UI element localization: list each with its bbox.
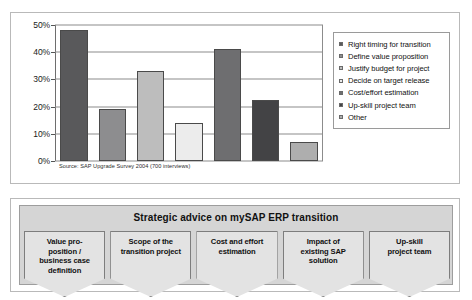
source-note: Source: SAP Upgrade Survey 2004 (700 int… <box>59 163 190 169</box>
step-4[interactable]: Impact of existing SAP solution <box>283 231 364 297</box>
legend-item-label: Justify budget for project <box>348 64 429 73</box>
bar-7 <box>290 142 318 161</box>
legend-item[interactable]: Justify budget for project <box>339 62 445 74</box>
legend-swatch-icon <box>339 115 343 119</box>
legend-item-label: Other <box>348 113 367 122</box>
legend-item[interactable]: Decide on target release <box>339 75 445 87</box>
legend-item[interactable]: Right timing for transition <box>339 38 445 50</box>
step-label: Up-skill project team <box>371 237 448 256</box>
bar-1 <box>60 30 88 161</box>
y-tick-mark <box>51 161 55 162</box>
legend-item-label: Up-skill project team <box>348 101 416 110</box>
bar-2 <box>99 109 127 161</box>
y-tick-label: 30% <box>33 74 50 84</box>
legend-swatch-icon <box>339 91 343 95</box>
legend-swatch-icon <box>339 42 343 46</box>
legend-swatch-icon <box>339 54 343 58</box>
chart-legend: Right timing for transitionDefine value … <box>333 32 450 129</box>
chart-panel: 50%40%30%20%10%0% Source: SAP Upgrade Su… <box>10 12 460 184</box>
legend-item[interactable]: Define value proposition <box>339 50 445 62</box>
bar-series <box>55 25 323 161</box>
bar-5 <box>214 49 242 161</box>
y-tick-label: 0% <box>38 156 50 166</box>
step-label: Impact of existing SAP solution <box>285 237 362 266</box>
bar-6 <box>252 100 280 161</box>
step-2[interactable]: Scope of the transition project <box>110 231 191 297</box>
step-label: Value pro- position / business case defi… <box>26 237 103 275</box>
plot-area: 50%40%30%20%10%0% <box>55 25 323 161</box>
legend-swatch-icon <box>339 79 343 83</box>
legend-swatch-icon <box>339 103 343 107</box>
y-tick-label: 50% <box>33 20 50 30</box>
diagram-panel: Strategic advice on mySAP ERP transition… <box>10 198 460 292</box>
y-tick-label: 40% <box>33 47 50 57</box>
y-tick-label: 20% <box>33 102 50 112</box>
legend-item-label: Define value proposition <box>348 52 428 61</box>
legend-item[interactable]: Other <box>339 111 445 123</box>
banner-title: Strategic advice on mySAP ERP transition <box>20 212 452 223</box>
legend-swatch-icon <box>339 66 343 70</box>
legend-item-label: Right timing for transition <box>348 40 431 49</box>
legend-item[interactable]: Up-skill project team <box>339 99 445 111</box>
bar-4 <box>175 123 203 161</box>
step-list: Value pro- position / business case defi… <box>24 231 450 297</box>
step-3[interactable]: Cost and effort estimation <box>196 231 277 297</box>
banner: Strategic advice on mySAP ERP transition… <box>19 205 453 285</box>
step-label: Cost and effort estimation <box>198 237 275 256</box>
step-label: Scope of the transition project <box>112 237 189 256</box>
legend-item-label: Cost/effort estimation <box>348 88 419 97</box>
bar-3 <box>137 71 165 161</box>
step-1[interactable]: Value pro- position / business case defi… <box>24 231 105 297</box>
legend-item[interactable]: Cost/effort estimation <box>339 87 445 99</box>
y-tick-label: 10% <box>33 129 50 139</box>
step-5[interactable]: Up-skill project team <box>369 231 450 297</box>
legend-item-label: Decide on target release <box>348 76 430 85</box>
